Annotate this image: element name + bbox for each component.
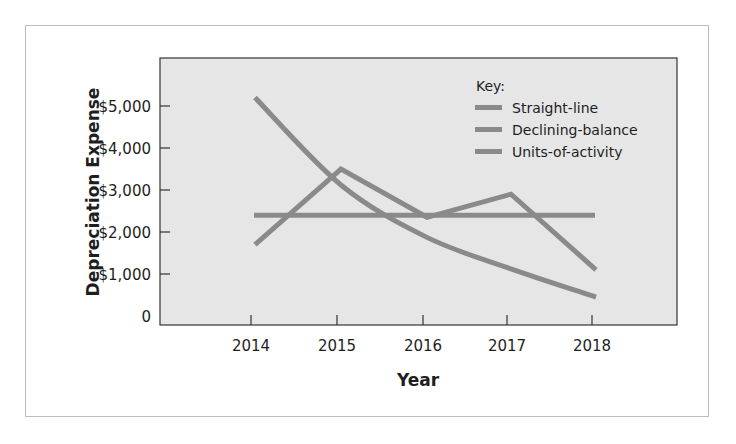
legend-swatch-icon bbox=[475, 127, 502, 132]
y-tick-label: $5,000 bbox=[99, 98, 152, 116]
y-tick-label: 0 bbox=[141, 308, 151, 326]
y-axis-title: Depreciation Expense bbox=[83, 88, 103, 297]
legend-title: Key: bbox=[476, 78, 505, 94]
x-axis-title: Year bbox=[396, 370, 440, 390]
x-tick-label: 2014 bbox=[232, 337, 270, 355]
legend-label: Declining-balance bbox=[512, 122, 638, 138]
y-tick-label: $3,000 bbox=[99, 182, 152, 200]
y-axis: 0$1,000$2,000$3,000$4,000$5,000 bbox=[99, 98, 171, 326]
legend-swatch-icon bbox=[475, 149, 502, 154]
x-tick-label: 2016 bbox=[404, 337, 442, 355]
y-tick-label: $1,000 bbox=[99, 266, 152, 284]
y-tick-label: $4,000 bbox=[99, 140, 152, 158]
legend-label: Straight-line bbox=[512, 100, 598, 116]
legend-swatch-icon bbox=[475, 105, 502, 110]
x-tick-label: 2017 bbox=[488, 337, 526, 355]
legend-label: Units-of-activity bbox=[512, 144, 623, 160]
x-tick-label: 2015 bbox=[318, 337, 356, 355]
y-tick-label: $2,000 bbox=[99, 224, 152, 242]
depreciation-line-chart: 0$1,000$2,000$3,000$4,000$5,000 20142015… bbox=[0, 0, 736, 444]
plot-area bbox=[160, 58, 677, 325]
x-tick-label: 2018 bbox=[573, 337, 611, 355]
